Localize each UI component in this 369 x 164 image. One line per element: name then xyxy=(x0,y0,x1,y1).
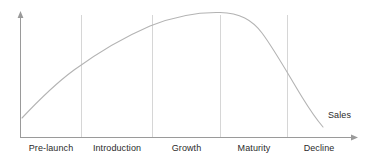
chart-canvas xyxy=(0,0,369,164)
stage-label-maturity: Maturity xyxy=(221,143,287,154)
stage-label-introduction: Introduction xyxy=(82,143,152,154)
product-life-cycle-chart: Sales Pre-launch Introduction Growth Mat… xyxy=(0,0,369,164)
series-label-sales: Sales xyxy=(328,110,351,121)
stage-label-decline: Decline xyxy=(288,143,350,154)
sales-curve xyxy=(22,12,323,127)
y-axis-arrow-icon xyxy=(18,11,24,18)
x-axis-arrow-icon xyxy=(351,135,358,141)
stage-label-pre-launch: Pre-launch xyxy=(20,143,82,154)
x-axis xyxy=(20,135,358,141)
y-axis xyxy=(18,11,24,138)
stage-dividers xyxy=(82,15,288,137)
stage-label-growth: Growth xyxy=(153,143,220,154)
